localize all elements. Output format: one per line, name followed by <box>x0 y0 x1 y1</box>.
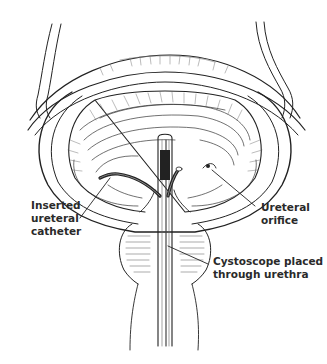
label-inserted-ureteral-catheter: Inserted ureteral catheter <box>31 199 81 238</box>
label-line: through urethra <box>213 268 323 281</box>
cystoscope-leader-line <box>168 246 208 264</box>
label-line: orifice <box>261 214 310 227</box>
label-cystoscope: Cystoscope placed through urethra <box>213 255 323 281</box>
label-line: Inserted <box>31 199 81 212</box>
bulb-hatching <box>126 236 204 272</box>
right-ureter <box>256 22 293 118</box>
label-line: Cystoscope placed <box>213 255 323 268</box>
bladder-dome <box>30 55 300 120</box>
label-line: ureteral <box>31 212 81 225</box>
orifice-leader-line <box>212 170 255 206</box>
cystoscope <box>158 134 172 346</box>
label-line: Ureteral <box>261 201 310 214</box>
bladder-illustration <box>0 0 327 364</box>
label-line: catheter <box>31 225 81 238</box>
label-ureteral-orifice: Ureteral orifice <box>261 201 310 227</box>
